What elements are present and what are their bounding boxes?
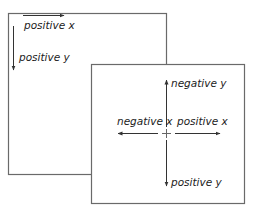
positive-x-label: positive x	[176, 115, 229, 127]
centered-box: negative y negative x positive x positiv…	[92, 65, 245, 204]
positive-y-label: positive y	[170, 176, 223, 188]
negative-y-label: negative y	[171, 77, 227, 89]
screen-positive-x-label: positive x	[23, 19, 76, 31]
negative-x-label: negative x	[117, 115, 173, 127]
coordinate-diagram: positive x positive y negative y negativ…	[0, 0, 255, 211]
screen-positive-y-label: positive y	[18, 51, 71, 63]
